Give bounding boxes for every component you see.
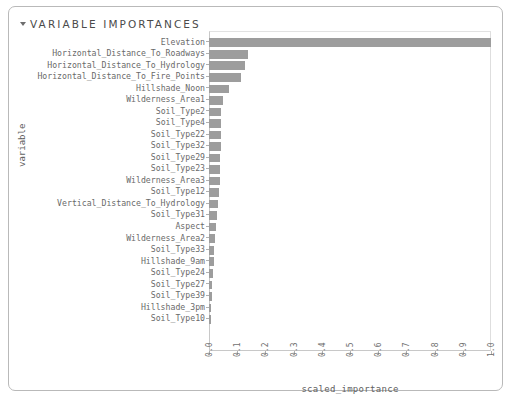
bar-row: Soil_Type29 — [209, 152, 491, 164]
bar-category-label: Soil_Type24 — [151, 267, 205, 279]
bar-category-label: Soil_Type12 — [151, 186, 205, 198]
bar — [209, 246, 214, 255]
bar-row: Soil_Type10 — [209, 314, 491, 326]
bar-row: Soil_Type24 — [209, 268, 491, 280]
bar-row: Soil_Type39 — [209, 291, 491, 303]
x-axis-tick-label: 0.5 — [346, 343, 355, 357]
bar — [209, 257, 214, 266]
bar-category-label: Soil_Type31 — [151, 209, 205, 221]
variable-importances-panel: VARIABLE IMPORTANCES ElevationHorizontal… — [8, 6, 503, 391]
bar-category-label: Horizontal_Distance_To_Fire_Points — [37, 71, 205, 83]
bar-category-label: Hillshade_3pm — [141, 302, 205, 314]
bar-category-label: Soil_Type29 — [151, 152, 205, 164]
bar-category-label: Horizontal_Distance_To_Roadways — [52, 48, 205, 60]
bar — [209, 85, 229, 94]
bar-row: Soil_Type22 — [209, 129, 491, 141]
bar-category-label: Soil_Type33 — [151, 244, 205, 256]
variable-importance-chart: ElevationHorizontal_Distance_To_Roadways… — [9, 7, 504, 392]
bar — [209, 165, 220, 174]
bar — [209, 131, 221, 140]
x-axis-tick-label: 0.0 — [205, 343, 214, 357]
bar-category-label: Soil_Type39 — [151, 290, 205, 302]
bar-category-label: Elevation — [161, 37, 205, 49]
x-axis-tick-label: 0.3 — [290, 343, 299, 357]
bar-row: Soil_Type27 — [209, 279, 491, 291]
x-axis-tick-label: 0.8 — [431, 343, 440, 357]
bar — [209, 269, 213, 278]
bar-category-label: Wilderness_Area2 — [126, 233, 205, 245]
bar — [209, 315, 211, 324]
bar — [209, 223, 216, 232]
bar-row: Horizontal_Distance_To_Fire_Points — [209, 72, 491, 84]
bar-category-label: Hillshade_Noon — [136, 83, 205, 95]
bar-row: Soil_Type4 — [209, 118, 491, 130]
bar-row: Soil_Type32 — [209, 141, 491, 153]
bar-row: Hillshade_Noon — [209, 83, 491, 95]
bar-category-label: Soil_Type22 — [151, 129, 205, 141]
bar — [209, 50, 248, 59]
bar — [209, 73, 241, 82]
x-axis-label: scaled_importance — [209, 384, 491, 394]
bar-row: Soil_Type31 — [209, 210, 491, 222]
bar — [209, 281, 212, 290]
bar-category-label: Soil_Type10 — [151, 313, 205, 325]
bar — [209, 211, 217, 220]
bar-row: Soil_Type33 — [209, 245, 491, 257]
bar-category-label: Hillshade_9am — [141, 256, 205, 268]
x-axis-tick-label: 0.2 — [261, 343, 270, 357]
bar — [209, 108, 221, 117]
bar — [209, 119, 221, 128]
bar-series: ElevationHorizontal_Distance_To_Roadways… — [209, 37, 491, 345]
bar-category-label: Soil_Type4 — [156, 117, 205, 129]
x-axis-tick-label: 1.0 — [487, 343, 496, 357]
bar-category-label: Soil_Type32 — [151, 140, 205, 152]
bar-row: Soil_Type23 — [209, 164, 491, 176]
bar-row: Hillshade_9am — [209, 256, 491, 268]
x-axis-tick-label: 0.4 — [318, 343, 327, 357]
bar-row: Wilderness_Area2 — [209, 233, 491, 245]
x-axis-tick-label: 0.7 — [402, 343, 411, 357]
bar-row: Soil_Type2 — [209, 106, 491, 118]
bar — [209, 304, 211, 313]
bar-row: Elevation — [209, 37, 491, 49]
bar-row: Hillshade_3pm — [209, 302, 491, 314]
bar-row: Horizontal_Distance_To_Hydrology — [209, 60, 491, 72]
bar-category-label: Aspect — [175, 221, 205, 233]
bar — [209, 38, 491, 47]
bar — [209, 96, 223, 105]
bar-row: Aspect — [209, 222, 491, 234]
bar — [209, 142, 221, 151]
bar — [209, 188, 219, 197]
bar-row: Vertical_Distance_To_Hydrology — [209, 198, 491, 210]
bar — [209, 234, 215, 243]
bar — [209, 177, 220, 186]
bar-row: Soil_Type12 — [209, 187, 491, 199]
x-axis-tick-label: 0.6 — [374, 343, 383, 357]
bar-category-label: Horizontal_Distance_To_Hydrology — [47, 60, 205, 72]
bar — [209, 200, 218, 209]
y-axis-label: variable — [17, 124, 27, 167]
x-axis-tick-label: 0.1 — [233, 343, 242, 357]
bar-category-label: Wilderness_Area3 — [126, 175, 205, 187]
x-axis-tick-label: 0.9 — [459, 343, 468, 357]
bar — [209, 292, 212, 301]
bar-category-label: Wilderness_Area1 — [126, 94, 205, 106]
bar-category-label: Soil_Type27 — [151, 279, 205, 291]
bar-row: Horizontal_Distance_To_Roadways — [209, 49, 491, 61]
bar-category-label: Soil_Type2 — [156, 106, 205, 118]
bar-category-label: Vertical_Distance_To_Hydrology — [57, 198, 205, 210]
bar — [209, 61, 245, 70]
bar-category-label: Soil_Type23 — [151, 163, 205, 175]
bar-row: Wilderness_Area1 — [209, 95, 491, 107]
bar-row: Wilderness_Area3 — [209, 175, 491, 187]
bar — [209, 154, 220, 163]
